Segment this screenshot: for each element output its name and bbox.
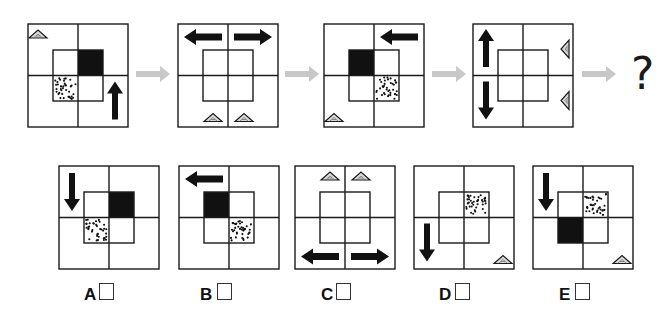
sequence-figure-1 — [28, 24, 128, 127]
arrow-down-icon — [419, 224, 435, 262]
arrow-down-icon — [478, 82, 494, 120]
sequence-figure-4 — [473, 24, 573, 127]
figure-grid — [324, 24, 424, 127]
arrow-left-icon — [301, 249, 339, 265]
figure-grid — [59, 166, 159, 269]
small-triangle-icon — [321, 172, 339, 180]
black-square — [204, 192, 229, 218]
dotted-square — [53, 76, 78, 102]
dotted-square — [374, 76, 399, 102]
arrow-down-icon — [538, 173, 554, 211]
option-e-figure[interactable] — [533, 166, 633, 269]
option-a-figure[interactable] — [59, 166, 159, 269]
option-a-checkbox[interactable] — [99, 283, 114, 300]
black-square — [109, 192, 134, 218]
small-triangle-icon — [613, 256, 631, 264]
small-triangle-icon — [235, 114, 253, 122]
small-triangle-icon — [494, 256, 512, 264]
figure-grid — [414, 166, 514, 269]
dotted-square — [84, 218, 109, 244]
arrow-left-icon — [184, 29, 222, 45]
option-b-figure[interactable] — [179, 166, 279, 269]
dotted-square — [464, 192, 489, 218]
arrow-right-icon — [351, 249, 389, 265]
black-square — [78, 50, 103, 76]
flow-arrow-icon — [285, 64, 321, 84]
arrow-up-icon — [478, 29, 494, 67]
option-c-label: C — [321, 286, 333, 303]
option-c-checkbox[interactable] — [336, 283, 351, 300]
option-d-label: D — [439, 286, 451, 303]
figure-grid — [295, 166, 395, 269]
small-triangle-icon — [561, 40, 569, 58]
arrow-up-icon — [107, 82, 123, 120]
dotted-square — [229, 218, 254, 244]
option-c-figure[interactable] — [295, 166, 395, 269]
flow-arrow-icon — [582, 64, 618, 84]
option-e-label: E — [559, 286, 570, 303]
arrow-down-icon — [64, 173, 80, 211]
figure-grid — [473, 24, 573, 127]
small-triangle-icon — [29, 30, 47, 38]
figure-grid — [178, 24, 278, 127]
small-triangle-icon — [204, 114, 222, 122]
arrow-left-icon — [185, 171, 223, 187]
black-square — [558, 218, 583, 244]
small-triangle-icon — [325, 114, 343, 122]
small-triangle-icon — [561, 92, 569, 110]
option-e-checkbox[interactable] — [575, 283, 590, 300]
dotted-square — [583, 192, 608, 218]
figure-grid — [533, 166, 633, 269]
flow-arrow-icon — [432, 64, 468, 84]
arrow-right-icon — [234, 29, 272, 45]
option-b-checkbox[interactable] — [217, 283, 232, 300]
figure-grid — [28, 24, 128, 127]
figure-grid — [179, 166, 279, 269]
flow-arrow-icon — [136, 64, 172, 84]
arrow-left-icon — [380, 29, 418, 45]
sequence-figure-3 — [324, 24, 424, 127]
sequence-figure-2 — [178, 24, 278, 127]
option-b-label: B — [200, 286, 212, 303]
small-triangle-icon — [352, 172, 370, 180]
option-a-label: A — [84, 286, 96, 303]
black-square — [349, 50, 374, 76]
option-d-figure[interactable] — [414, 166, 514, 269]
unknown-figure-question-mark: ? — [631, 52, 654, 96]
option-d-checkbox[interactable] — [455, 283, 470, 300]
